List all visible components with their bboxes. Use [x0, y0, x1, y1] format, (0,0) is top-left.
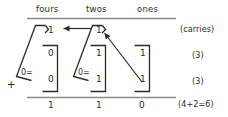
addend2-digit-ones: 1: [140, 75, 146, 84]
sum-digit-twos: 1: [96, 101, 102, 110]
annotation-addend1: (3): [192, 52, 204, 60]
carry-digit-twos: 1: [96, 26, 102, 35]
column-header-fours: fours: [36, 5, 59, 14]
annotation-carries: (carries): [180, 26, 214, 34]
addend1-digit-fours: 0: [48, 49, 54, 58]
addition-operator: +: [7, 80, 15, 90]
annotation-addend2: (3): [192, 78, 204, 86]
addend1-digit-ones: 1: [140, 49, 146, 58]
addend2-digit-twos: 1: [96, 75, 102, 84]
sum-digit-ones: 0: [139, 101, 145, 110]
twos-carry-hook: [102, 26, 106, 34]
addend1-digit-twos: 1: [96, 49, 102, 58]
addend2-digit-fours: 0: [48, 75, 54, 84]
column-header-ones: ones: [137, 5, 158, 14]
carry-arrow-ones-to-twos: [105, 33, 143, 82]
twos-group-marker: 0=: [78, 69, 90, 77]
fours-group-marker: 0=: [21, 69, 33, 77]
column-header-twos: twos: [86, 5, 107, 14]
annotation-sum: (4+2=6): [178, 101, 214, 109]
carry-digit-fours: 1: [48, 26, 54, 35]
sum-digit-fours: 1: [48, 101, 54, 110]
binary-addition-diagram: fours twos ones 1 1 0 1 1 0 1 1 0= 0= + …: [0, 0, 228, 117]
